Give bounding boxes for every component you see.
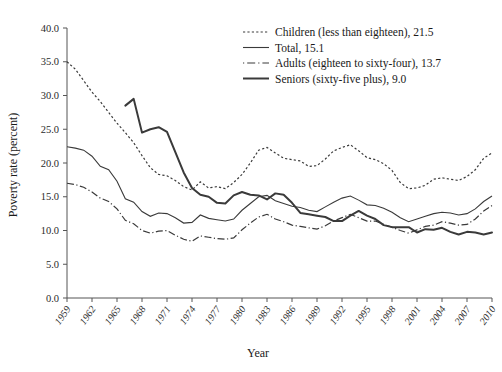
x-tick-label: 1992 <box>327 304 347 327</box>
y-tick-label: 0.0 <box>46 293 59 304</box>
x-tick-label: 2007 <box>452 303 473 327</box>
legend-label: Seniors (sixty-five plus), 9.0 <box>275 73 407 86</box>
y-tick-label: 30.0 <box>41 90 59 101</box>
x-tick-label: 1974 <box>177 304 197 327</box>
x-tick-label: 2010 <box>477 304 497 327</box>
x-tick-label: 1983 <box>252 304 272 327</box>
x-tick-label: 1995 <box>352 304 372 327</box>
series-line <box>67 183 492 241</box>
y-tick-label: 40.0 <box>41 23 59 34</box>
x-tick-label: 1986 <box>277 304 297 327</box>
chart-legend: Children (less than eighteen), 21.5Total… <box>243 26 441 86</box>
x-tick-label: 1989 <box>302 304 322 327</box>
x-tick-label: 1959 <box>52 304 72 327</box>
y-tick-label: 5.0 <box>46 259 59 270</box>
x-tick-label: 1968 <box>127 304 147 327</box>
x-tick-label: 1980 <box>227 304 247 327</box>
chart-canvas: 0.05.010.015.020.025.030.035.040.0 19591… <box>0 0 502 372</box>
y-tick-label: 35.0 <box>41 56 59 67</box>
x-axis-title: Year <box>247 346 269 360</box>
x-axis: 1959196219651968197119741977198019831986… <box>52 298 497 327</box>
x-tick-label: 1977 <box>202 303 223 327</box>
series-line <box>67 147 492 223</box>
x-tick-label: 1962 <box>77 304 97 327</box>
y-tick-label: 25.0 <box>41 124 59 135</box>
legend-label: Total, 15.1 <box>275 42 325 55</box>
y-tick-label: 10.0 <box>41 225 59 236</box>
series-line <box>125 99 492 235</box>
x-tick-label: 1998 <box>377 304 397 327</box>
x-tick-label: 2004 <box>427 304 447 327</box>
x-tick-label: 1965 <box>102 304 122 327</box>
x-tick-label: 1971 <box>152 304 172 327</box>
legend-label: Adults (eighteen to sixty-four), 13.7 <box>275 57 441 70</box>
series-lines <box>67 62 492 242</box>
legend-label: Children (less than eighteen), 21.5 <box>275 26 434 39</box>
y-axis-title: Poverty rate (percent) <box>6 113 20 218</box>
y-tick-label: 20.0 <box>41 158 59 169</box>
x-tick-label: 2001 <box>402 304 422 327</box>
y-axis: 0.05.010.015.020.025.030.035.040.0 <box>41 23 67 304</box>
y-tick-label: 15.0 <box>41 191 59 202</box>
poverty-rate-line-chart: 0.05.010.015.020.025.030.035.040.0 19591… <box>0 0 502 372</box>
